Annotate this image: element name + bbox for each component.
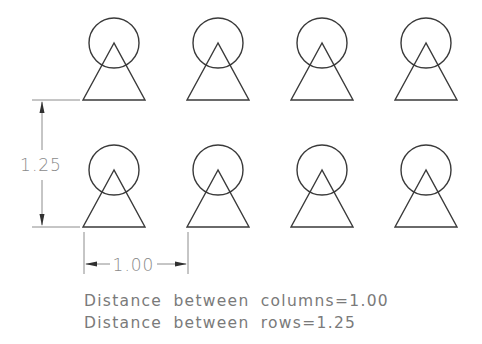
array-symbol [291, 145, 353, 227]
note-column-distance: Distance between columns=1.00 [84, 292, 389, 310]
row-spacing-dimension: 1.25 [20, 100, 80, 227]
array-symbol [83, 18, 145, 100]
triangle-icon [83, 170, 145, 227]
array-symbol [395, 145, 457, 227]
triangle-icon [291, 170, 353, 227]
array-symbol [395, 18, 457, 100]
row-spacing-label: 1.25 [20, 155, 62, 175]
array-symbol [187, 145, 249, 227]
arrow-down-icon [40, 214, 45, 226]
array-symbol [187, 18, 249, 100]
array-symbol [291, 18, 353, 100]
arrow-up-icon [40, 101, 45, 113]
triangle-icon [395, 170, 457, 227]
triangle-icon [395, 43, 457, 100]
note-row-distance: Distance between rows=1.25 [84, 314, 356, 332]
triangle-icon [291, 43, 353, 100]
column-spacing-dimension: 1.00 [84, 232, 188, 275]
arrow-left-icon [85, 262, 97, 267]
column-spacing-label: 1.00 [113, 255, 155, 275]
triangle-icon [187, 170, 249, 227]
triangle-icon [187, 43, 249, 100]
triangle-icon [83, 43, 145, 100]
array-diagram: 1.25 1.00 Distance between columns=1.00 … [0, 0, 482, 344]
arrow-right-icon [175, 262, 187, 267]
array-symbol [83, 145, 145, 227]
symbol-array [83, 18, 457, 227]
